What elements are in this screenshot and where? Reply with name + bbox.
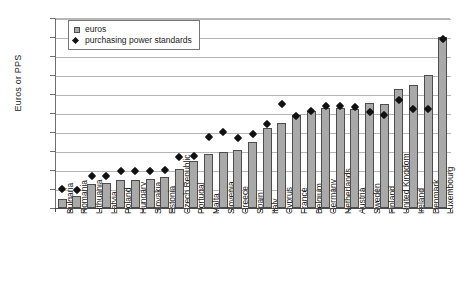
x-tick-mark (435, 208, 436, 212)
x-tick-mark (201, 208, 202, 212)
gridline (56, 76, 451, 77)
x-tick-mark (274, 208, 275, 212)
x-tick-mark (304, 208, 305, 212)
diamond-marker-icon (74, 38, 80, 43)
y-tick-mark (50, 18, 55, 19)
x-tick-mark (289, 208, 290, 212)
y-tick-mark (50, 37, 55, 38)
x-axis-label-luxembourg: Luxembourg (446, 167, 455, 214)
y-tick-mark (50, 56, 55, 57)
x-tick-mark (391, 208, 392, 212)
x-tick-mark (128, 208, 129, 212)
x-tick-mark (362, 208, 363, 212)
chart-container: Euros or PPS euros purchasing power stan… (0, 0, 457, 297)
x-tick-mark (84, 208, 85, 212)
legend-item-pps: purchasing power standards (74, 35, 192, 46)
bar-italy (263, 128, 272, 208)
x-tick-mark (406, 208, 407, 212)
square-marker-icon (74, 27, 80, 33)
x-tick-mark (318, 208, 319, 212)
gridline (56, 57, 451, 58)
x-tick-mark (172, 208, 173, 212)
y-tick-mark (50, 113, 55, 114)
x-tick-mark (421, 208, 422, 212)
legend-label-euros: euros (85, 24, 106, 35)
legend-item-euros: euros (74, 24, 192, 35)
x-tick-mark (216, 208, 217, 212)
y-tick-mark (50, 189, 55, 190)
x-tick-mark (55, 208, 56, 212)
x-tick-mark (143, 208, 144, 212)
gridline (56, 114, 451, 115)
gridline (56, 95, 451, 96)
x-tick-mark (231, 208, 232, 212)
chart-legend: euros purchasing power standards (68, 20, 200, 50)
x-tick-mark (70, 208, 71, 212)
x-tick-mark (187, 208, 188, 212)
x-tick-mark (114, 208, 115, 212)
y-tick-mark (50, 151, 55, 152)
x-tick-mark (245, 208, 246, 212)
x-tick-mark (450, 208, 451, 212)
x-tick-mark (377, 208, 378, 212)
x-tick-mark (157, 208, 158, 212)
y-tick-mark (50, 75, 55, 76)
x-tick-mark (333, 208, 334, 212)
x-tick-mark (260, 208, 261, 212)
y-tick-mark (50, 132, 55, 133)
x-tick-mark (348, 208, 349, 212)
x-tick-mark (99, 208, 100, 212)
y-tick-mark (50, 170, 55, 171)
legend-label-pps: purchasing power standards (85, 35, 192, 46)
y-axis-title: Euros or PPS (13, 43, 23, 123)
y-tick-mark (50, 94, 55, 95)
